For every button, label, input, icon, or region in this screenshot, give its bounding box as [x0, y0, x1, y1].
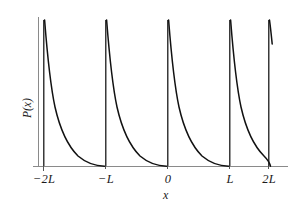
figure-canvas: P(x) −2L −L 0 L 2L x	[0, 0, 295, 209]
x-axis-label: x	[163, 189, 168, 201]
decay-curve-L-to-2L	[231, 20, 271, 166]
x-tick-label-2L: 2L	[251, 173, 287, 186]
x-tick-label-minus-L: −L	[88, 173, 124, 186]
decay-curve-0-to-L	[169, 20, 229, 166]
x-tick-label-0: 0	[152, 173, 184, 186]
decay-curve-minusL-to-0	[107, 20, 167, 166]
decay-curve-minus2L-to-minusL	[45, 20, 105, 166]
x-tick-label-L: L	[214, 173, 246, 186]
x-tick-label-minus-2L: −2L	[23, 173, 65, 186]
decay-curve-2L-clipped	[270, 20, 273, 44]
y-axis-label: P(x)	[22, 98, 34, 118]
